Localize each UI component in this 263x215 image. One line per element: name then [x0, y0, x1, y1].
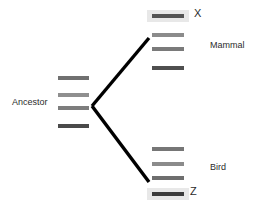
band-bird-0 — [152, 147, 184, 151]
diagram-canvas: Ancestor X Mammal Bird Z — [0, 0, 263, 215]
label-z: Z — [190, 186, 197, 197]
band-bird-3 — [152, 192, 184, 196]
label-x: X — [194, 8, 201, 19]
label-ancestor: Ancestor — [12, 98, 48, 107]
label-bird: Bird — [210, 163, 226, 172]
band-bird-2 — [152, 176, 184, 180]
band-bird-1 — [152, 162, 184, 166]
band-group-bird — [0, 0, 263, 215]
label-mammal: Mammal — [210, 41, 245, 50]
